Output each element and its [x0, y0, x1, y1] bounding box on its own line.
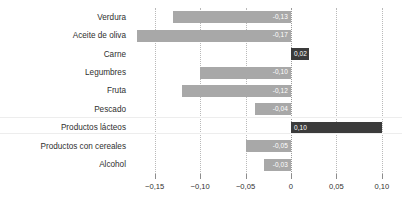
bar-row: -0,10 [132, 63, 400, 81]
bar-value-label: -0,05 [273, 143, 288, 150]
bar-row: -0,12 [132, 82, 400, 100]
x-tick-mark-2 [246, 174, 247, 179]
category-label-4: Fruta [0, 82, 126, 100]
x-tick-mark-5 [382, 174, 383, 179]
category-label-3: Legumbres [0, 63, 126, 81]
category-label-5: Pescado [0, 100, 126, 118]
bar-row: 0,10 [132, 119, 400, 137]
x-tick-label-0: −0,15 [145, 182, 164, 191]
x-tick-mark-1 [200, 174, 201, 179]
bar-row: -0,04 [132, 100, 400, 118]
x-tick-label-2: −0,05 [236, 182, 255, 191]
bar-value-label: -0,17 [273, 32, 288, 39]
value-axis: −0,15−0,10−0,0500,050,10 [132, 174, 400, 198]
x-tick-mark-0 [155, 174, 156, 179]
category-label-1: Aceite de oliva [0, 26, 126, 44]
category-label-0: Verdura [0, 8, 126, 26]
x-tick-label-5: 0,10 [374, 182, 389, 191]
category-label-6: Productos lácteos [0, 119, 126, 137]
x-tick-label-3: 0 [289, 182, 293, 191]
x-tick-label-4: 0,05 [329, 182, 344, 191]
bar[interactable]: -0,10 [200, 67, 291, 79]
bar-row: -0,03 [132, 156, 400, 174]
bar-row: 0,02 [132, 45, 400, 63]
bar[interactable]: -0,03 [264, 159, 291, 171]
bar-value-label: -0,13 [273, 14, 288, 21]
category-axis: VerduraAceite de olivaCarneLegumbresFrut… [0, 8, 126, 174]
bar-value-label: -0,12 [273, 88, 288, 95]
bar[interactable]: -0,13 [173, 11, 291, 23]
horizontal-bar-chart: VerduraAceite de olivaCarneLegumbresFrut… [0, 0, 402, 207]
bar-value-label: 0,10 [294, 125, 307, 132]
plot-area: -0,13-0,170,02-0,10-0,12-0,040,10-0,05-0… [132, 8, 400, 174]
bar-row: -0,05 [132, 137, 400, 155]
x-tick-mark-3 [291, 174, 292, 179]
bar[interactable]: -0,17 [137, 30, 291, 42]
category-label-8: Alcohol [0, 156, 126, 174]
bar[interactable]: -0,12 [182, 85, 291, 97]
x-tick-mark-4 [336, 174, 337, 179]
bar[interactable]: -0,05 [246, 140, 291, 152]
bar-value-label: -0,03 [273, 162, 288, 169]
bar-value-label: -0,04 [273, 106, 288, 113]
bar[interactable]: 0,10 [291, 122, 382, 134]
bar[interactable]: -0,04 [255, 103, 291, 115]
x-tick-label-1: −0,10 [191, 182, 210, 191]
bar-rows: -0,13-0,170,02-0,10-0,12-0,040,10-0,05-0… [132, 8, 400, 174]
bar-value-label: 0,02 [294, 51, 307, 58]
bar[interactable]: 0,02 [291, 48, 309, 60]
category-label-7: Productos con cereales [0, 137, 126, 155]
bar-value-label: -0,10 [273, 69, 288, 76]
bar-row: -0,13 [132, 8, 400, 26]
bar-row: -0,17 [132, 26, 400, 44]
category-label-2: Carne [0, 45, 126, 63]
